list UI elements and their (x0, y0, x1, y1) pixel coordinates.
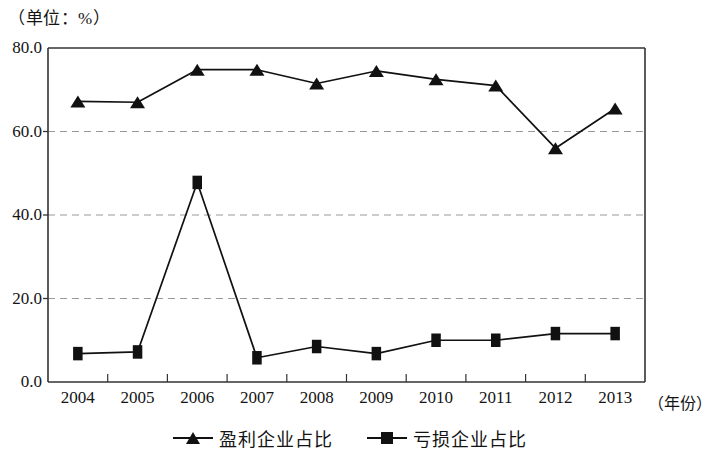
legend-item-loss: 亏损企业占比 (367, 425, 527, 451)
x-tick-label: 2009 (359, 388, 393, 408)
data-point-marker (608, 103, 623, 115)
legend-label-loss: 亏损企业占比 (413, 425, 527, 451)
gridlines-group (43, 132, 645, 299)
square-marker-icon (367, 430, 407, 446)
series-line-2 (78, 182, 615, 357)
data-point-marker (309, 77, 324, 89)
data-point-marker (193, 176, 203, 190)
triangle-marker-icon (173, 430, 213, 446)
y-tick-label: 80.0 (0, 38, 42, 58)
y-tick-label: 40.0 (0, 205, 42, 225)
data-point-marker (551, 327, 561, 341)
series-lines-group (78, 70, 615, 358)
y-tick-label: 0.0 (0, 372, 42, 392)
legend-label-profit: 盈利企业占比 (219, 425, 333, 451)
data-point-marker (73, 347, 83, 361)
series-line-1 (78, 70, 615, 148)
x-tick-label: 2007 (240, 388, 274, 408)
data-point-marker (491, 334, 501, 348)
legend-item-profit: 盈利企业占比 (173, 425, 333, 451)
x-tick-label: 2005 (121, 388, 155, 408)
data-point-marker (431, 334, 441, 348)
x-tick-label: 2012 (538, 388, 572, 408)
x-tick-label: 2004 (61, 388, 95, 408)
x-tick-marks-group (108, 374, 586, 382)
x-tick-label: 2010 (419, 388, 453, 408)
y-tick-label: 20.0 (0, 289, 42, 309)
chart-legend: 盈利企业占比 亏损企业占比 (0, 425, 700, 451)
data-point-marker (312, 340, 322, 354)
y-tick-label: 60.0 (0, 122, 42, 142)
series-markers-group (70, 64, 622, 365)
data-point-marker (252, 351, 262, 365)
x-tick-label: 2008 (300, 388, 334, 408)
x-tick-label: 2011 (479, 388, 512, 408)
data-point-marker (372, 347, 382, 361)
x-tick-label: 2013 (598, 388, 632, 408)
data-point-marker (133, 345, 143, 359)
x-axis-title: （年份） (648, 390, 706, 414)
x-tick-label: 2006 (180, 388, 214, 408)
data-point-marker (610, 327, 620, 341)
